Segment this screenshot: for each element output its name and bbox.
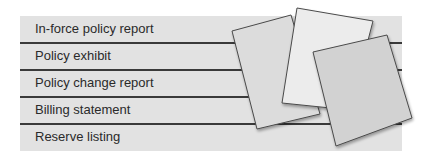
stacked-papers-icon [0,0,432,157]
paper-right-icon [313,35,412,146]
